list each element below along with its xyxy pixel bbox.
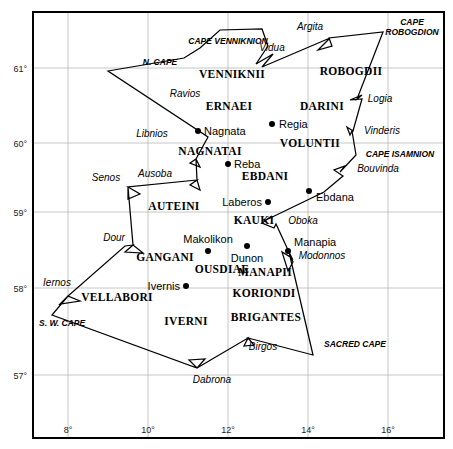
lon-tick-label: 16° [381, 425, 395, 435]
lon-tick-label: 14° [301, 425, 315, 435]
lat-tick-label: 61° [13, 64, 27, 74]
city-label-laberos: Laberos [222, 196, 262, 208]
tribe-label-venniknii: VENNIKNII [199, 68, 265, 80]
cape-label-n-cape: N. CAPE [143, 57, 178, 67]
lon-tick-label: 8° [64, 425, 73, 435]
river-label-bouvinda: Bouvinda [357, 163, 399, 174]
city-label-nagnata: Nagnata [204, 125, 246, 137]
tribe-label-koriondi: KORIONDI [232, 287, 295, 299]
lat-tick-label: 59° [13, 208, 27, 218]
city-dot-icon [195, 128, 201, 134]
city-label-ivernis: Ivernis [148, 280, 181, 292]
city-dot-icon [183, 283, 189, 289]
tribe-label-vellabori: VELLABORI [81, 291, 153, 303]
lat-tick-label: 57° [13, 371, 27, 381]
river-label-ravios: Ravios [170, 88, 201, 99]
city-dot-icon [244, 243, 250, 249]
lon-tick-label: 10° [141, 425, 155, 435]
cape-label-line: N. CAPE [143, 57, 178, 67]
city-label-dunon: Dunon [231, 252, 263, 264]
cape-label-cape-isamnion: CAPE ISAMNION [366, 149, 435, 159]
tribe-label-iverni: IVERNI [164, 315, 208, 327]
river-label-dabrona: Dabrona [193, 374, 232, 385]
map-canvas: 61°60°59°58°57° 8°10°12°14°16° VENNIKNII… [0, 0, 453, 449]
city-dot-icon [205, 248, 211, 254]
cape-label-cape-venniknion: CAPE VENNIKNION [188, 36, 268, 46]
tribe-label-robogdii: ROBOGDII [320, 65, 383, 77]
river-label-oboka: Oboka [288, 215, 318, 226]
river-label-vinderis: Vinderis [364, 125, 400, 136]
river-label-senos: Senos [92, 172, 120, 183]
cape-label-line: ROBOGDION [385, 27, 439, 37]
city-label-reba: Reba [234, 158, 261, 170]
river-label-modonnos: Modonnos [299, 250, 346, 261]
tribe-label-auteini: AUTEINI [148, 200, 200, 212]
city-label-manapia: Manapia [294, 236, 337, 248]
river-label-logia: Logia [368, 93, 393, 104]
city-dot-icon [265, 199, 271, 205]
city-dot-icon [306, 188, 312, 194]
cape-label-line: CAPE [400, 17, 424, 27]
city-dot-icon [269, 121, 275, 127]
city-dot-icon [285, 248, 291, 254]
tribe-label-gangani: GANGANI [136, 251, 194, 263]
tribe-label-voluntii: VOLUNTII [280, 137, 341, 149]
river-label-birgos: Birgos [249, 341, 277, 352]
river-label-argita: Argita [296, 21, 324, 32]
cape-label-line: CAPE ISAMNION [366, 149, 435, 159]
cape-label-line: SACRED CAPE [324, 339, 386, 349]
lat-tick-label: 58° [13, 284, 27, 294]
city-label-ebdana: Ebdana [316, 191, 355, 203]
tribe-label-brigantes: BRIGANTES [231, 311, 301, 323]
river-label-libnios: Libnios [136, 128, 168, 139]
tribe-label-kauki: KAUKI [234, 214, 275, 226]
river-label-iernos: Iernos [43, 277, 71, 288]
lat-tick-label: 60° [13, 139, 27, 149]
lon-tick-label: 12° [221, 425, 235, 435]
tribe-label-darini: DARINI [300, 100, 344, 112]
river-label-dour: Dour [103, 232, 125, 243]
city-label-regia: Regia [279, 118, 309, 130]
river-label-ausoba: Ausoba [137, 168, 172, 179]
tribe-label-ernaei: ERNAEI [206, 100, 253, 112]
ptolemy-ireland-map: 61°60°59°58°57° 8°10°12°14°16° VENNIKNII… [0, 0, 453, 449]
cape-label-line: S. W. CAPE [39, 318, 85, 328]
cape-label-s-w-cape: S. W. CAPE [39, 318, 85, 328]
tribe-label-manapii: MANAPII [238, 266, 292, 278]
city-label-makolikon: Makolikon [183, 233, 233, 245]
tribe-label-ebdani: EBDANI [242, 170, 289, 182]
cape-label-sacred-cape: SACRED CAPE [324, 339, 386, 349]
city-dot-icon [225, 161, 231, 167]
tribe-label-nagnatai: NAGNATAI [178, 145, 242, 157]
cape-label-line: CAPE VENNIKNION [188, 36, 268, 46]
